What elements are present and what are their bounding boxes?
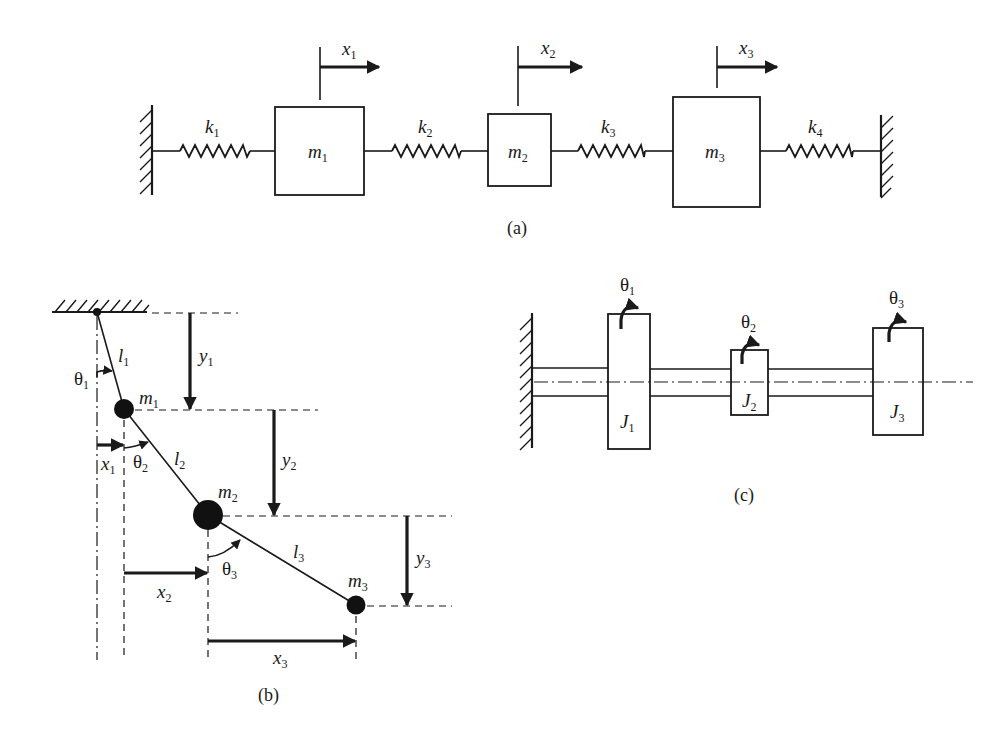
- vertical-arrow-y2: y2: [274, 410, 296, 515]
- spring-label-k1: k1: [205, 116, 219, 140]
- spring-k1: k1: [152, 116, 275, 157]
- fixed-wall-left-icon: [140, 105, 152, 195]
- rotation-label-theta3: θ3: [889, 287, 904, 311]
- caption-c: (c): [734, 485, 754, 506]
- panel-b-triple-pendulum: l1 l2 l3 m1 m2 m3 θ1 θ2 θ3 x1 x2: [52, 300, 452, 706]
- rotation-label-theta2: θ2: [741, 311, 756, 335]
- bob-label-m2: m2: [218, 481, 238, 505]
- displacement-arrow-x3: x3: [717, 37, 777, 88]
- caption-b: (b): [258, 685, 279, 706]
- vertical-label-y2: y2: [280, 449, 296, 473]
- bob-label-m1: m1: [139, 387, 159, 411]
- angle-theta2: θ2: [124, 442, 148, 475]
- angle-label-theta1: θ1: [74, 368, 89, 392]
- horizontal-arrow-x1: x1: [97, 445, 123, 477]
- mass-block-m2: m2: [488, 114, 551, 186]
- spring-k2: k2: [364, 116, 488, 157]
- rotation-label-theta1: θ1: [620, 274, 635, 298]
- angle-theta3: θ3: [208, 540, 240, 582]
- bob-label-m3: m3: [348, 570, 368, 594]
- vertical-arrow-y1: y1: [190, 313, 213, 409]
- spring-label-k2: k2: [418, 116, 432, 140]
- vertical-label-y1: y1: [197, 345, 213, 369]
- fixed-wall-right-icon: [881, 115, 893, 198]
- fixed-wall-torsional-icon: [520, 313, 532, 450]
- horizontal-label-x3: x3: [272, 647, 287, 671]
- angle-theta1: θ1: [74, 368, 112, 392]
- horizontal-arrow-x3: x3: [208, 641, 355, 671]
- spring-label-k4: k4: [808, 116, 822, 140]
- pendulum-bob-m2: [193, 500, 223, 530]
- horizontal-arrow-x2: x2: [124, 573, 207, 605]
- angle-label-theta3: θ3: [222, 558, 237, 582]
- angle-label-theta2: θ2: [133, 451, 148, 475]
- panel-c-torsional-system: J1 θ1 J2 θ2 J3 θ3 (c): [520, 274, 973, 506]
- vertical-arrow-y3: y3: [407, 516, 430, 605]
- displacement-arrow-x1: x1: [320, 38, 379, 100]
- displacement-label-x2: x2: [540, 37, 555, 61]
- spring-k3: k3: [551, 116, 673, 157]
- inertia-disk-J3: J3 θ3: [873, 287, 923, 435]
- pendulum-bob-m3: [347, 596, 366, 615]
- displacement-arrow-x2: x2: [518, 37, 582, 106]
- inertia-disk-J1: J1 θ1: [608, 274, 650, 449]
- spring-label-k3: k3: [601, 116, 615, 140]
- displacement-label-x1: x1: [341, 38, 356, 62]
- caption-a: (a): [507, 218, 527, 239]
- panel-a-spring-mass-system: k1 k2 k3 k4 m1 m2: [140, 37, 893, 239]
- displacement-label-x3: x3: [738, 37, 753, 61]
- vertical-label-y3: y3: [414, 547, 430, 571]
- link-label-l3: l3: [293, 541, 304, 565]
- link-label-l2: l2: [174, 448, 185, 472]
- spring-k4: k4: [760, 116, 881, 157]
- pendulum-bob-m1: [114, 399, 134, 419]
- horizontal-label-x1: x1: [100, 453, 115, 477]
- link-label-l1: l1: [118, 345, 129, 369]
- mass-block-m1: m1: [275, 107, 364, 195]
- ceiling-support-icon: [52, 300, 149, 316]
- mass-block-m3: m3: [673, 97, 760, 207]
- inertia-disk-J2: J2 θ2: [731, 311, 768, 415]
- vibration-systems-figure: k1 k2 k3 k4 m1 m2: [0, 0, 1008, 745]
- horizontal-label-x2: x2: [156, 581, 171, 605]
